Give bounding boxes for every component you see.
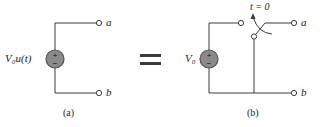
switch-blade bbox=[256, 23, 291, 34]
terminal-b-a-icon bbox=[96, 90, 101, 95]
top-wire-a bbox=[55, 23, 96, 50]
bottom-wire-b bbox=[209, 68, 291, 93]
switch-time-label: t = 0 bbox=[250, 1, 270, 12]
panel-b-circuit: + − bbox=[200, 13, 297, 96]
switch-pivot-icon bbox=[251, 34, 256, 39]
switch-contact-upper-icon bbox=[238, 20, 243, 25]
terminal-a-label-b: a bbox=[301, 16, 307, 28]
terminal-b-b-icon bbox=[291, 90, 296, 95]
caption-a: (a) bbox=[63, 107, 74, 118]
top-wire-b bbox=[209, 23, 238, 50]
equals-bar-top bbox=[140, 54, 161, 57]
terminal-a-label-a: a bbox=[106, 16, 112, 28]
caption-b: (b) bbox=[247, 107, 259, 118]
svg-text:−: − bbox=[207, 59, 212, 68]
svg-text:−: − bbox=[53, 59, 58, 68]
source-label-b: V₀ bbox=[185, 52, 196, 64]
terminal-a-b-icon bbox=[291, 20, 296, 25]
circuit-diagram: + − + − bbox=[0, 0, 326, 127]
bottom-wire-a bbox=[55, 68, 96, 93]
source-label-a: V₀u(t) bbox=[5, 52, 31, 64]
panel-a-circuit: + − bbox=[46, 20, 102, 95]
switch-arrow-head-icon bbox=[251, 13, 256, 19]
terminal-b-label-b: b bbox=[301, 86, 307, 98]
equals-bar-bottom bbox=[140, 62, 161, 65]
terminal-a-a-icon bbox=[96, 20, 101, 25]
terminal-b-label-a: b bbox=[106, 86, 112, 98]
